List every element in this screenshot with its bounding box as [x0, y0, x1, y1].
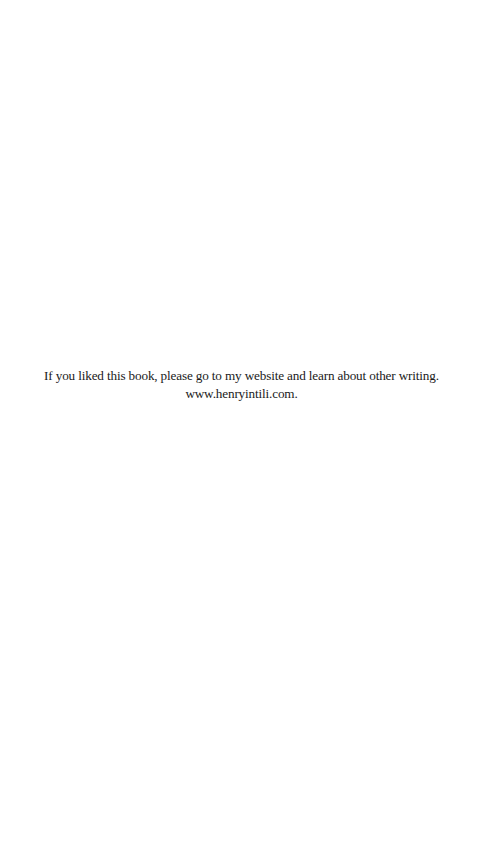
message-line: If you liked this book, please go to my …: [0, 367, 483, 385]
closing-message: If you liked this book, please go to my …: [0, 367, 483, 403]
book-page: If you liked this book, please go to my …: [0, 0, 483, 865]
website-link: www.henryintili.com.: [0, 385, 483, 403]
